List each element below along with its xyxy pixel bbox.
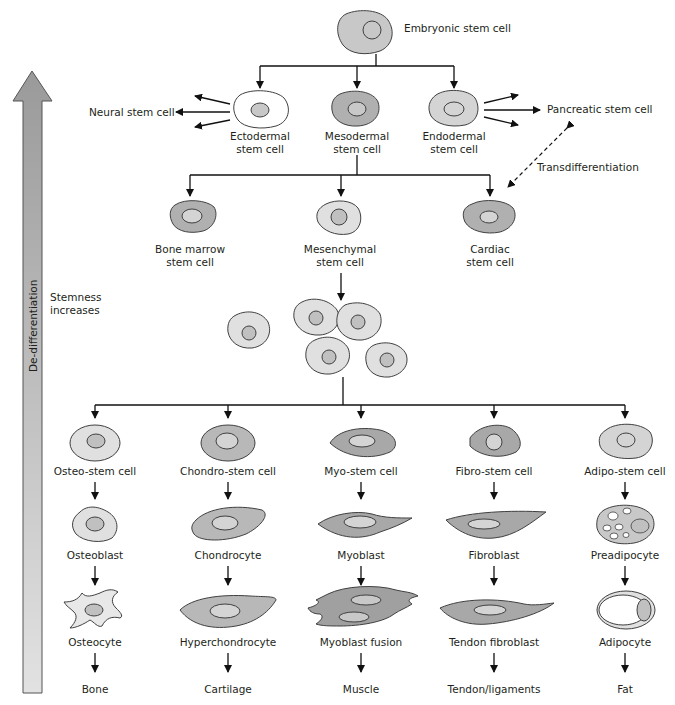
ectodermal-label-line1: Ectodermal: [220, 130, 300, 143]
bone-marrow-label-line2: stem cell: [150, 256, 230, 269]
mesenchymal-label-line1: Mesenchymal: [300, 243, 380, 256]
mesodermal-label-line1: Mesodermal: [317, 130, 397, 143]
fibroblast-label: Fibroblast: [444, 549, 544, 562]
adipo-stem-label: Adipo-stem cell: [575, 465, 675, 478]
endodermal-label-line2: stem cell: [414, 143, 494, 156]
mesodermal-stem-cell-icon: [332, 91, 379, 126]
osteo-stem-cell-icon: [70, 425, 120, 461]
chondrocyte-label: Chondrocyte: [178, 549, 278, 562]
tendon-fibroblast-label: Tendon fibroblast: [444, 636, 544, 649]
hyperchondrocyte-label: Hyperchondrocyte: [178, 636, 278, 649]
bone-marrow-label-line1: Bone marrow: [150, 243, 230, 256]
mesodermal-label-line2: stem cell: [317, 143, 397, 156]
osteo-stem-label: Osteo-stem cell: [45, 465, 145, 478]
tendon-ligaments-label: Tendon/ligaments: [444, 683, 544, 696]
embryonic-stem-cell-label: Embryonic stem cell: [404, 22, 511, 35]
osteocyte-icon: [64, 590, 122, 628]
bone-marrow-stem-cell-icon: [170, 201, 216, 233]
myoblast-fusion-icon: [308, 587, 418, 626]
transdifferentiation-label: Transdifferentiation: [537, 161, 639, 174]
myo-stem-label: Myo-stem cell: [311, 465, 411, 478]
cardiac-stem-cell-icon: [463, 201, 515, 233]
cardiac-label-line2: stem cell: [450, 256, 530, 269]
de-differentiation-label: De-differentiation: [27, 280, 39, 372]
adipocyte-icon: [597, 591, 655, 629]
cardiac-label-line1: Cardiac: [450, 243, 530, 256]
ectodermal-label-line2: stem cell: [220, 143, 300, 156]
stemness-label-line2: increases: [50, 304, 100, 317]
myo-stem-cell-icon: [330, 429, 395, 457]
fat-label: Fat: [575, 683, 675, 696]
osteoblast-label: Osteoblast: [45, 549, 145, 562]
mesenchymal-cell-cluster-icon: [228, 299, 407, 377]
myoblast-icon: [318, 512, 412, 537]
endodermal-label-line1: Endodermal: [414, 130, 494, 143]
preadipocyte-icon: [597, 505, 654, 544]
chondro-stem-cell-icon: [201, 425, 255, 461]
stemness-label-line1: Stemness: [50, 291, 102, 304]
endodermal-stem-cell-icon: [429, 90, 478, 126]
osteocyte-label: Osteocyte: [45, 636, 145, 649]
osteoblast-icon: [73, 507, 117, 541]
chondrocyte-icon: [192, 507, 265, 540]
ectodermal-stem-cell-icon: [234, 91, 289, 128]
myoblast-fusion-label: Myoblast fusion: [311, 636, 411, 649]
fibro-stem-cell-icon: [470, 425, 520, 456]
tendon-fibroblast-icon: [440, 600, 554, 624]
transdifferentiation-arrow: [508, 128, 567, 187]
adipocyte-label: Adipocyte: [575, 636, 675, 649]
muscle-label: Muscle: [311, 683, 411, 696]
fibroblast-icon: [446, 511, 546, 538]
de-differentiation-arrow: [13, 71, 52, 693]
pancreatic-stem-cell-label: Pancreatic stem cell: [547, 103, 653, 116]
fibro-stem-label: Fibro-stem cell: [444, 465, 544, 478]
myoblast-label: Myoblast: [311, 549, 411, 562]
embryonic-stem-cell-icon: [338, 11, 392, 54]
hyperchondrocyte-icon: [180, 596, 276, 628]
bone-label: Bone: [45, 683, 145, 696]
neural-stem-cell-label: Neural stem cell: [89, 106, 175, 119]
mesenchymal-label-line2: stem cell: [300, 256, 380, 269]
adipo-stem-cell-icon: [599, 424, 652, 458]
chondro-stem-label: Chondro-stem cell: [178, 465, 278, 478]
cartilage-label: Cartilage: [178, 683, 278, 696]
preadipocyte-label: Preadipocyte: [575, 549, 675, 562]
mesenchymal-stem-cell-icon: [317, 201, 361, 234]
